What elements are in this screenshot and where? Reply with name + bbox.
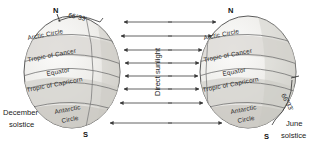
diagram-canvas: N S 66°33' Arctic Circle Tropic of Cance… (0, 0, 320, 145)
solstice-diagram: N S 66°33' Arctic Circle Tropic of Cance… (0, 0, 320, 145)
june-solstice-label-line1: June (286, 119, 302, 128)
december-north-pole-label: N (53, 6, 58, 15)
december-south-pole-label: S (83, 130, 88, 139)
june-south-pole-label: S (264, 132, 269, 141)
direct-sunlight-label: Direct sunlight (153, 47, 162, 96)
december-solstice-label-line1: December (3, 108, 38, 117)
december-solstice-label-line2: solstice (9, 120, 34, 129)
june-north-pole-label: N (228, 6, 233, 15)
june-solstice-label-line2: solstice (281, 131, 306, 140)
